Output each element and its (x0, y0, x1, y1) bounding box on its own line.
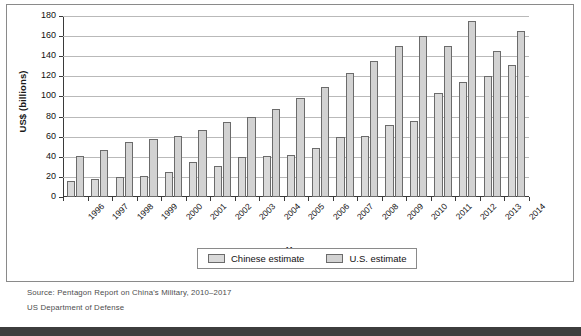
bar-group (63, 16, 88, 197)
bar-chinese-estimate (67, 181, 75, 197)
bar-chinese-estimate (385, 125, 393, 197)
bar-group (186, 16, 211, 197)
bar-chinese-estimate (189, 162, 197, 197)
x-tick-mark (431, 197, 432, 201)
bar-group (88, 16, 113, 197)
source-line-1: Source: Pentagon Report on China's Milit… (27, 288, 232, 297)
y-tick-label: 140 (29, 51, 56, 60)
bar-us-estimate (419, 36, 427, 197)
bar-chinese-estimate (361, 136, 369, 197)
y-tick-label: 100 (29, 91, 56, 100)
bar-series-container (63, 16, 529, 197)
y-tick-label: 160 (29, 31, 56, 40)
chart-legend: Chinese estimateU.S. estimate (197, 248, 417, 269)
bar-group (333, 16, 358, 197)
y-tick-label: 60 (29, 132, 56, 141)
bar-group (431, 16, 456, 197)
legend-label: Chinese estimate (231, 253, 304, 264)
x-tick-mark (357, 197, 358, 201)
x-tick-mark (186, 197, 187, 201)
bar-group (308, 16, 333, 197)
bar-us-estimate (272, 109, 280, 197)
bar-group (480, 16, 505, 197)
bar-us-estimate (444, 46, 452, 197)
y-tick-label: 40 (29, 152, 56, 161)
bar-chinese-estimate (312, 148, 320, 197)
bar-chinese-estimate (116, 177, 124, 197)
bar-us-estimate (223, 122, 231, 197)
bar-chinese-estimate (336, 137, 344, 197)
legend-label: U.S. estimate (349, 253, 406, 264)
bar-group (112, 16, 137, 197)
x-tick-mark (112, 197, 113, 201)
source-line-2: US Department of Defense (27, 303, 232, 312)
x-tick-mark (235, 197, 236, 201)
bar-us-estimate (517, 31, 525, 197)
bar-group (137, 16, 162, 197)
legend-item: U.S. estimate (326, 253, 406, 264)
x-tick-mark (210, 197, 211, 201)
y-tick-label: 180 (29, 11, 56, 20)
bar-chinese-estimate (459, 82, 467, 197)
us-estimate-swatch (326, 254, 343, 263)
x-tick-mark (504, 197, 505, 201)
y-tick-label: 80 (29, 112, 56, 121)
x-tick-mark (333, 197, 334, 201)
bar-group (357, 16, 382, 197)
source-block: Source: Pentagon Report on China's Milit… (27, 288, 232, 312)
bar-us-estimate (321, 87, 329, 197)
bar-us-estimate (76, 156, 84, 197)
bar-chart-figure: US$ (billions) 020406080100120140160180 … (0, 0, 581, 284)
bar-us-estimate (100, 150, 108, 197)
bar-us-estimate (174, 136, 182, 197)
chinese-estimate-swatch (208, 254, 225, 263)
x-tick-mark (137, 197, 138, 201)
bar-group (406, 16, 431, 197)
bar-us-estimate (198, 130, 206, 197)
x-tick-mark (259, 197, 260, 201)
bar-chinese-estimate (484, 76, 492, 197)
bar-group (210, 16, 235, 197)
bar-group (455, 16, 480, 197)
bar-us-estimate (468, 21, 476, 197)
bar-group (259, 16, 284, 197)
bar-chinese-estimate (140, 176, 148, 197)
bar-chinese-estimate (214, 166, 222, 197)
bar-us-estimate (370, 61, 378, 197)
bar-us-estimate (125, 142, 133, 197)
x-tick-mark (382, 197, 383, 201)
bar-us-estimate (149, 139, 157, 197)
bar-chinese-estimate (238, 157, 246, 197)
bar-group (284, 16, 309, 197)
x-tick-mark (308, 197, 309, 201)
y-axis-title: US$ (billions) (17, 32, 28, 172)
bar-chinese-estimate (91, 179, 99, 197)
x-tick-mark (63, 197, 64, 201)
bar-chinese-estimate (410, 121, 418, 197)
x-tick-mark (161, 197, 162, 201)
bar-chinese-estimate (508, 65, 516, 197)
bar-chinese-estimate (434, 93, 442, 197)
x-tick-mark (480, 197, 481, 201)
bar-group (504, 16, 529, 197)
bar-group (382, 16, 407, 197)
bar-group (161, 16, 186, 197)
x-tick-mark (284, 197, 285, 201)
bar-chinese-estimate (165, 172, 173, 197)
bar-us-estimate (493, 51, 501, 197)
y-tick-label: 0 (29, 192, 56, 201)
chart-page: US$ (billions) 020406080100120140160180 … (0, 0, 581, 336)
y-tick-label: 120 (29, 71, 56, 80)
bar-us-estimate (247, 117, 255, 197)
bar-us-estimate (346, 73, 354, 197)
x-tick-mark (88, 197, 89, 201)
y-tick-label: 20 (29, 172, 56, 181)
bar-us-estimate (395, 46, 403, 197)
legend-item: Chinese estimate (208, 253, 304, 264)
plot-area: 020406080100120140160180 199619971998199… (63, 16, 529, 197)
x-tick-mark (455, 197, 456, 201)
bar-chinese-estimate (263, 156, 271, 197)
x-tick-mark (529, 197, 530, 201)
bar-us-estimate (296, 98, 304, 197)
page-bottom-bar (0, 327, 581, 336)
